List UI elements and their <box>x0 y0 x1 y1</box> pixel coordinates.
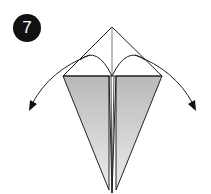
top-triangle-flap <box>63 27 162 76</box>
right-panel <box>116 76 162 190</box>
origami-fold-diagram <box>0 0 211 194</box>
left-panel <box>63 76 109 190</box>
fold-arcs <box>80 55 145 76</box>
kite-body <box>63 76 162 193</box>
